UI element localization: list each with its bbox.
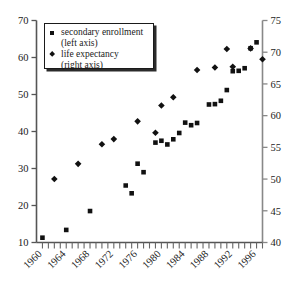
data-point	[135, 161, 140, 166]
left-tick-label-10: 10	[18, 237, 29, 248]
x-axis-label-1976: 1976	[116, 248, 139, 271]
right-axis-ticks: 4045505560657075	[263, 15, 282, 248]
data-point	[75, 161, 82, 168]
left-tick-label-50: 50	[18, 89, 29, 100]
data-point	[165, 142, 170, 147]
legend-label-secondary-enrollment: secondary enrollment	[61, 27, 143, 38]
legend-sublabel-right-axis: (right axis)	[50, 60, 149, 71]
data-point	[212, 64, 219, 71]
data-point	[194, 67, 201, 74]
data-point	[159, 138, 164, 143]
data-point	[213, 102, 218, 107]
data-point	[171, 137, 176, 142]
data-point	[177, 131, 182, 136]
x-axis-tick-labels: 1960196419681972197619801984198819921996	[21, 248, 258, 271]
data-point	[242, 66, 247, 71]
x-axis-minor-ticks	[42, 243, 262, 249]
data-point	[51, 176, 58, 183]
diamond-marker-icon	[50, 49, 61, 60]
left-tick-label-40: 40	[18, 126, 29, 137]
data-point	[224, 46, 231, 53]
legend-label-life-expectancy: life expectancy	[61, 49, 119, 60]
x-axis-label-1968: 1968	[69, 248, 92, 271]
data-point	[170, 94, 177, 101]
data-point	[158, 102, 165, 109]
x-axis-label-1960: 1960	[21, 248, 44, 271]
right-tick-label-40: 40	[271, 237, 282, 248]
data-point	[40, 235, 45, 240]
left-axis-ticks: 10203040506070	[18, 15, 37, 248]
right-tick-label-75: 75	[271, 15, 282, 26]
right-tick-label-45: 45	[271, 206, 282, 217]
x-axis-label-1984: 1984	[164, 248, 187, 271]
data-point	[254, 40, 259, 45]
square-marker-icon	[50, 27, 61, 38]
data-point	[229, 64, 236, 71]
chart-legend: secondary enrollment (left axis) life ex…	[44, 23, 154, 69]
x-axis-label-1964: 1964	[45, 248, 68, 271]
data-point	[64, 228, 69, 233]
scatter-chart: 10203040506070 4045505560657075 19601964…	[0, 0, 300, 287]
data-point	[183, 120, 188, 125]
x-axis-label-1992: 1992	[212, 248, 235, 271]
data-point	[189, 123, 194, 128]
left-tick-label-30: 30	[18, 163, 29, 174]
left-tick-label-70: 70	[18, 15, 29, 26]
data-point	[141, 170, 146, 175]
data-point	[225, 88, 230, 93]
left-tick-label-20: 20	[18, 200, 29, 211]
right-tick-label-60: 60	[271, 110, 282, 121]
x-axis-label-1996: 1996	[235, 248, 258, 271]
legend-sublabel-left-axis: (left axis)	[50, 38, 149, 49]
data-point	[219, 98, 224, 103]
data-point	[247, 45, 254, 52]
right-tick-label-50: 50	[271, 174, 282, 185]
right-tick-label-55: 55	[271, 142, 282, 153]
data-point	[195, 121, 200, 126]
right-tick-label-65: 65	[271, 79, 282, 90]
data-point	[129, 191, 134, 196]
x-axis-label-1988: 1988	[188, 248, 211, 271]
data-point	[207, 102, 212, 107]
x-axis-label-1972: 1972	[93, 248, 116, 271]
legend-item-secondary-enrollment: secondary enrollment	[50, 27, 149, 38]
data-point	[259, 56, 266, 63]
left-tick-label-60: 60	[18, 52, 29, 63]
data-point	[99, 141, 106, 148]
legend-item-life-expectancy: life expectancy	[50, 49, 149, 60]
right-tick-label-70: 70	[271, 47, 282, 58]
x-axis-label-1980: 1980	[140, 248, 163, 271]
data-point	[152, 129, 159, 136]
data-point	[134, 118, 141, 125]
data-point	[123, 183, 128, 188]
data-point	[236, 69, 241, 74]
data-point	[88, 209, 93, 214]
data-point	[153, 140, 158, 145]
data-point	[111, 136, 118, 143]
